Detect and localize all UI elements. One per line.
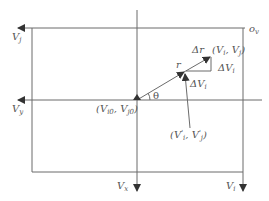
ov-corner-label: ov (249, 24, 259, 36)
target-point-label: (Vi, Vj) (212, 45, 245, 57)
origin-point-label: (Vi0, Vj0) (96, 104, 138, 116)
delta-vi-vertical-label: ΔVi (190, 79, 207, 91)
r-label: r (176, 60, 181, 70)
theta-arc (148, 93, 150, 100)
delta-vi-horizontal-label: ΔVi (218, 63, 235, 75)
r-vector (137, 72, 184, 100)
prime-point-label: (V'i, V'j) (170, 130, 207, 142)
vx-axis-label: Vx (117, 181, 128, 193)
vi-axis-label: Vi (226, 181, 235, 193)
theta-label: θ (153, 91, 159, 101)
delta-r-label: Δr (192, 45, 204, 55)
origin-marker-icon (133, 94, 141, 100)
delta-r-vector (184, 57, 210, 72)
vj-axis-label: Vj (12, 32, 21, 44)
vy-axis-label: Vy (12, 104, 23, 116)
velocity-diagram (0, 0, 269, 201)
